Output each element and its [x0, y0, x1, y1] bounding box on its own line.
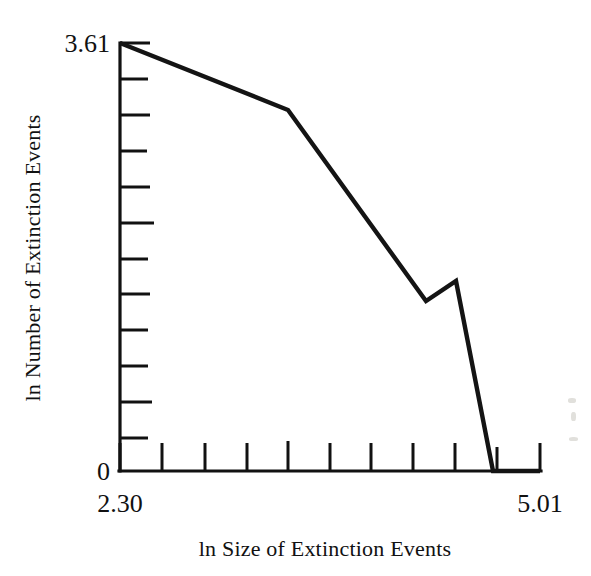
extinction-events-line-chart: 3.61 0 2.30 5.01 ln Size of Extinction E…: [0, 0, 591, 576]
figure-container: 3.61 0 2.30 5.01 ln Size of Extinction E…: [0, 0, 591, 576]
axis-spines: [119, 43, 541, 471]
data-series-line: [120, 43, 540, 471]
scan-speck: [569, 437, 578, 441]
y-axis-top-label: 3.61: [65, 29, 111, 58]
x-axis-ticks: [120, 441, 540, 471]
scan-speck: [568, 398, 576, 403]
x-axis-title: ln Size of Extinction Events: [199, 536, 451, 561]
y-axis-ticks: [120, 43, 154, 438]
y-axis-title: ln Number of Extinction Events: [20, 114, 45, 401]
scan-speck: [571, 412, 576, 421]
x-axis-left-label: 2.30: [97, 489, 143, 518]
y-axis-bottom-label: 0: [97, 457, 110, 486]
x-axis-right-label: 5.01: [517, 489, 563, 518]
